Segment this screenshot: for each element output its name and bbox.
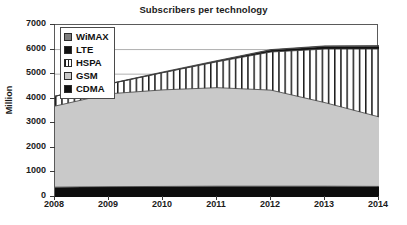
legend-item-lte[interactable]: LTE bbox=[64, 43, 109, 56]
x-axis-tick-label: 2008 bbox=[34, 199, 74, 209]
y-axis-tick-mark bbox=[50, 24, 55, 25]
legend-item-label: CDMA bbox=[76, 82, 105, 95]
legend-swatch-icon bbox=[64, 85, 72, 93]
legend-swatch-icon bbox=[64, 46, 72, 54]
y-axis-tick-mark bbox=[50, 98, 55, 99]
legend-item-wimax[interactable]: WiMAX bbox=[64, 30, 109, 43]
legend-swatch-icon bbox=[64, 59, 72, 67]
chart-title: Subscribers per technology bbox=[0, 4, 407, 15]
legend-item-label: WiMAX bbox=[76, 30, 109, 43]
legend-item-cdma[interactable]: CDMA bbox=[64, 82, 109, 95]
x-axis-tick-mark bbox=[108, 196, 109, 200]
y-axis-tick-mark bbox=[50, 147, 55, 148]
legend-item-gsm[interactable]: GSM bbox=[64, 69, 109, 82]
x-axis-tick-label: 2010 bbox=[142, 199, 182, 209]
area-series-cdma bbox=[55, 186, 379, 197]
x-axis-tick-label: 2014 bbox=[358, 199, 398, 209]
y-axis-tick-label: 3000 bbox=[0, 116, 46, 126]
y-axis-tick-label: 5000 bbox=[0, 67, 46, 77]
x-axis-tick-label: 2011 bbox=[196, 199, 236, 209]
x-axis-tick-mark bbox=[324, 196, 325, 200]
x-axis-tick-label: 2012 bbox=[250, 199, 290, 209]
y-axis-tick-label: 2000 bbox=[0, 141, 46, 151]
legend-item-label: LTE bbox=[76, 43, 93, 56]
x-axis-tick-mark bbox=[378, 196, 379, 200]
y-axis-tick-label: 4000 bbox=[0, 92, 46, 102]
x-axis-tick-mark bbox=[216, 196, 217, 200]
y-axis-tick-label: 7000 bbox=[0, 18, 46, 28]
x-axis-tick-label: 2009 bbox=[88, 199, 128, 209]
legend-item-label: GSM bbox=[76, 69, 98, 82]
x-axis-tick-mark bbox=[270, 196, 271, 200]
legend-item-hspa[interactable]: HSPA bbox=[64, 56, 109, 69]
y-axis-tick-label: 6000 bbox=[0, 43, 46, 53]
legend-item-label: HSPA bbox=[76, 56, 102, 69]
chart-container: Subscribers per technology Million WiMAX… bbox=[0, 0, 407, 225]
chart-legend: WiMAXLTEHSPAGSMCDMA bbox=[60, 27, 115, 99]
y-axis-tick-mark bbox=[50, 122, 55, 123]
legend-swatch-icon bbox=[64, 72, 72, 80]
y-axis-tick-mark bbox=[50, 171, 55, 172]
y-axis-tick-label: 1000 bbox=[0, 165, 46, 175]
x-axis-tick-mark bbox=[162, 196, 163, 200]
legend-swatch-icon bbox=[64, 33, 72, 41]
y-axis-tick-mark bbox=[50, 73, 55, 74]
y-axis-tick-mark bbox=[50, 49, 55, 50]
x-axis-tick-label: 2013 bbox=[304, 199, 344, 209]
x-axis-tick-mark bbox=[54, 196, 55, 200]
